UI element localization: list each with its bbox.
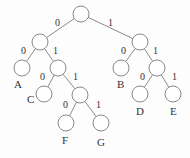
edge-bit-label: 0 (121, 45, 126, 56)
edge-bit-label: 0 (40, 71, 45, 82)
tree-edge (70, 102, 77, 116)
edge-bit-label: 1 (53, 45, 58, 56)
tree-node (73, 6, 89, 22)
tree-node (32, 34, 48, 50)
leaf-label: D (136, 105, 144, 117)
tree-edge (126, 48, 136, 61)
leaf-node (132, 86, 148, 102)
tree-svg: 010101010101 ABCDEFG (0, 0, 190, 158)
leaf-node (14, 60, 30, 76)
tree-node (132, 34, 148, 50)
tree-edge (47, 19, 75, 38)
edge-bit-label: 1 (108, 17, 113, 28)
leaf-label: G (97, 136, 105, 148)
leaf-label: A (14, 78, 22, 90)
tree-edge (48, 75, 54, 87)
tree-node (72, 87, 88, 103)
tree-node (149, 60, 165, 76)
edge-bit-label: 0 (21, 45, 26, 56)
edge-bit-label: 1 (153, 45, 158, 56)
leaf-node (36, 86, 52, 102)
edge-bit-label: 1 (96, 99, 101, 110)
tree-edge (85, 101, 96, 116)
tree-edge (144, 49, 152, 62)
tree-edge (144, 75, 152, 88)
nodes (14, 6, 181, 131)
tree-edge (161, 75, 169, 87)
tree-node (50, 60, 66, 76)
leaf-node (165, 86, 181, 102)
edge-bit-label: 1 (172, 71, 177, 82)
binary-tree-diagram: 010101010101 ABCDEFG (0, 0, 190, 158)
leaf-label: F (62, 134, 68, 146)
leaf-node (113, 60, 129, 76)
edge-bit-label: 0 (140, 71, 145, 82)
leaf-node (58, 115, 74, 131)
tree-edge (27, 49, 36, 62)
leaf-label: B (117, 78, 124, 90)
leaf-label: C (27, 93, 34, 105)
edge-bit-label: 0 (55, 17, 60, 28)
leaf-node (93, 115, 109, 131)
edge-bit-label: 0 (63, 99, 68, 110)
leaf-label: E (170, 105, 177, 117)
edge-bit-label: 1 (73, 71, 78, 82)
